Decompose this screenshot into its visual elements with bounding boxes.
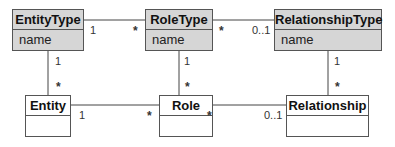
class-roletype: RoleType name [145, 9, 213, 51]
mult-entity-role-near: 1 [79, 110, 85, 121]
mult-entitytype-to-roletype-far: * [133, 26, 138, 37]
class-name: Role [160, 96, 212, 116]
attribute-name: name [13, 30, 83, 50]
attribute-name: name [275, 30, 381, 50]
mult-reltype-rel-bottom: * [335, 82, 340, 93]
mult-role-rel-near: * [207, 111, 212, 122]
class-entitytype: EntityType name [12, 9, 84, 51]
attribute-compartment [160, 116, 212, 136]
mult-entitytype-entity-top: 1 [55, 56, 61, 67]
mult-entity-role-far: * [147, 111, 152, 122]
class-name: RelationshipType [275, 10, 381, 30]
class-relationship: Relationship [286, 95, 369, 137]
mult-entitytype-to-roletype-near: 1 [90, 25, 96, 36]
mult-entitytype-entity-bottom: * [56, 82, 61, 93]
mult-roletype-to-reltype-near: * [219, 26, 224, 37]
attribute-compartment [26, 116, 70, 136]
attribute-name: name [146, 30, 212, 50]
mult-roletype-to-reltype-far: 0..1 [252, 25, 270, 36]
class-relationshiptype: RelationshipType name [274, 9, 382, 51]
class-name: Entity [26, 96, 70, 116]
class-name: Relationship [287, 96, 368, 116]
mult-reltype-rel-top: 1 [334, 56, 340, 67]
attribute-compartment [287, 116, 368, 136]
class-entity: Entity [25, 95, 71, 137]
class-name: RoleType [146, 10, 212, 30]
mult-role-rel-far: 0..1 [264, 110, 282, 121]
mult-roletype-role-top: 1 [184, 56, 190, 67]
class-name: EntityType [13, 10, 83, 30]
class-role: Role [159, 95, 213, 137]
mult-roletype-role-bottom: * [185, 82, 190, 93]
